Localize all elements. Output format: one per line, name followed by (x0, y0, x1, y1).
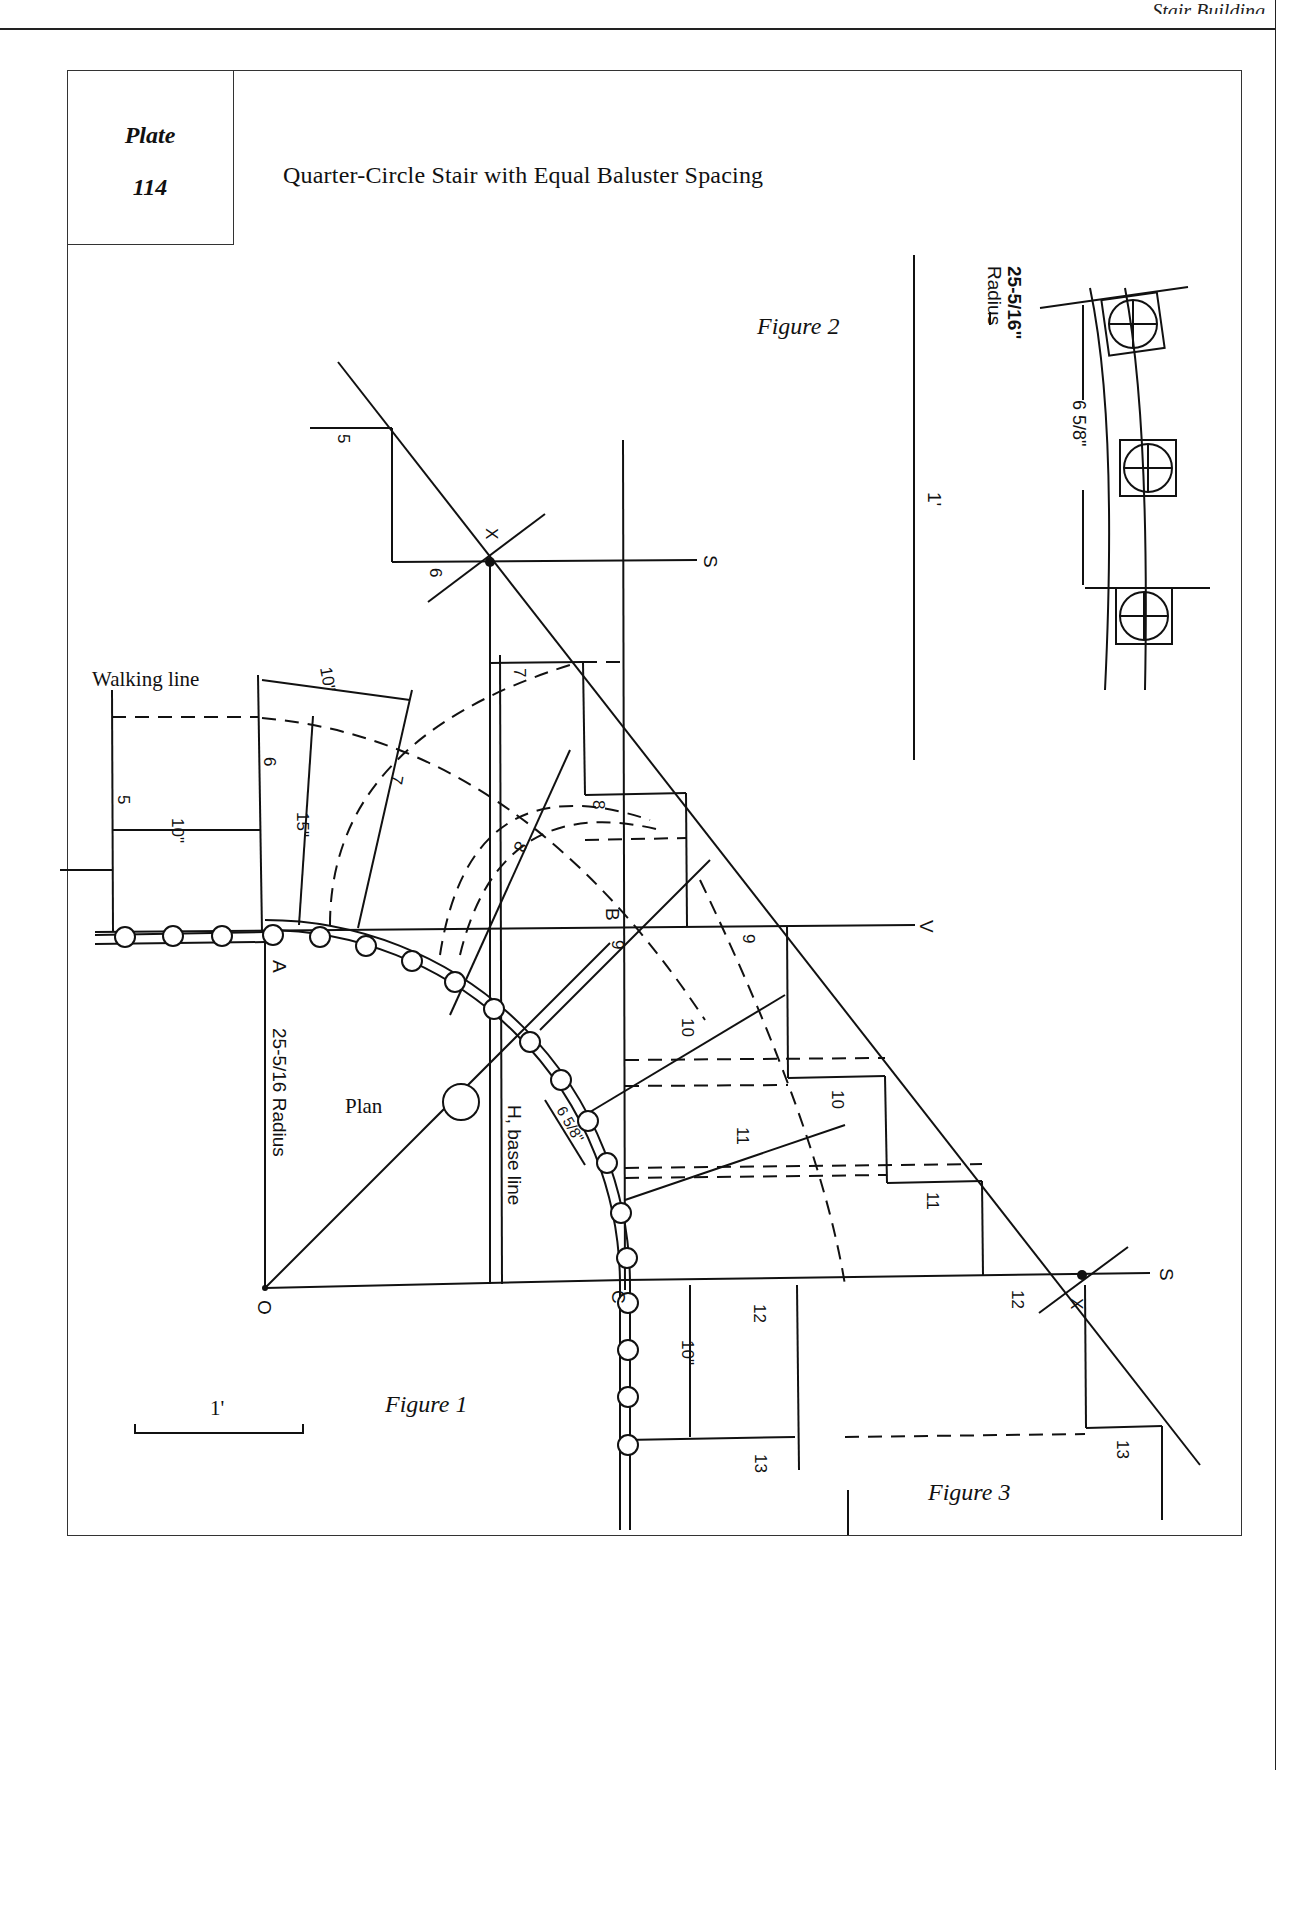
dim-15-inch: 15" (293, 812, 312, 837)
figure-2-radius-word: Radius (984, 266, 1005, 325)
step-number-10-elevation: 10 (828, 1090, 847, 1109)
baluster (310, 927, 330, 947)
step-number-9-elevation: 9 (739, 934, 758, 943)
figure-1-dashed-lines (112, 662, 1085, 1437)
point-a-label: A (269, 960, 290, 973)
base-line-label: H, base line (504, 1105, 525, 1205)
step-number-5-elevation: 5 (334, 434, 353, 443)
baluster (617, 1248, 637, 1268)
s-line-top (392, 560, 697, 562)
point-s-bottom-label: S (1156, 1268, 1177, 1281)
figure-3-caption: Figure 3 (927, 1479, 1010, 1505)
point-x-top-label: X (482, 528, 501, 539)
figure-1-scale-bar (135, 1424, 303, 1433)
step-number-11-elevation: 11 (923, 1192, 942, 1210)
step-number-6-elevation: 6 (426, 568, 445, 577)
step-number-12-elevation: 12 (1008, 1290, 1027, 1309)
baluster (163, 926, 183, 946)
baluster (263, 925, 283, 945)
step-number-5: 5 (114, 795, 133, 804)
dim-10-inch-straight: 10" (168, 818, 187, 843)
point-s-top-label: S (700, 555, 721, 568)
baluster (115, 927, 135, 947)
dim-10-inch-bottom: 10" (678, 1340, 697, 1365)
figure-2-labels: Figure 2 25-5/16" Radius 6 5/8" 1' (756, 266, 1089, 506)
step-number-10: 10 (678, 1018, 697, 1037)
plan-label: Plan (345, 1094, 383, 1118)
point-x-bottom-label: X (1067, 1298, 1086, 1309)
point-v-label: V (916, 920, 937, 933)
figure-1-labels: Walking line Plan Figure 1 1' A B C O V … (92, 434, 1177, 1473)
step-number-13-elevation: 13 (1113, 1440, 1132, 1459)
radius-label: 25-5/16 Radius (269, 1028, 290, 1157)
baluster (618, 1435, 638, 1455)
figure-2-radius-value: 25-5/16" (1004, 266, 1025, 339)
baluster (402, 951, 422, 971)
step-number-9: 9 (608, 940, 627, 949)
walking-line-label: Walking line (92, 667, 199, 691)
figure-1-caption: Figure 1 (384, 1391, 467, 1417)
point-o-label: O (254, 1300, 275, 1315)
step-number-7: 7 (386, 773, 406, 786)
baluster (618, 1387, 638, 1407)
radius-line-OC (265, 1280, 625, 1288)
point-c-label: C (608, 1290, 629, 1304)
step-number-13: 13 (751, 1454, 770, 1473)
point-b-label: B (602, 908, 623, 921)
figure-2-caption: Figure 2 (756, 313, 839, 339)
dim-10-inch-walking: 10" (316, 665, 339, 693)
h-base-line (500, 655, 502, 1284)
figure-2-baluster-spacing: 6 5/8" (1069, 400, 1089, 446)
baluster (597, 1153, 617, 1173)
baluster (618, 1340, 638, 1360)
baluster (356, 936, 376, 956)
figure-3-labels: Figure 3 (927, 1479, 1010, 1505)
step-number-7-elevation: 7 (510, 668, 529, 677)
figure-2-detail (914, 255, 1210, 760)
baluster (520, 1032, 540, 1052)
vertical-line-b (623, 440, 625, 1290)
step-number-8: 8 (509, 838, 530, 855)
figure-2-scale-label: 1' (924, 492, 945, 506)
baluster-circles (115, 925, 638, 1455)
baluster (611, 1203, 631, 1223)
baluster (445, 972, 465, 992)
baluster (484, 999, 504, 1019)
step-number-11: 11 (733, 1127, 752, 1145)
s-line-bottom (625, 1273, 1150, 1280)
step-number-6: 6 (260, 757, 279, 766)
baluster (212, 926, 232, 946)
scale-bar-label: 1' (210, 1396, 224, 1420)
baluster (551, 1070, 571, 1090)
newel-circle (443, 1084, 479, 1120)
step-number-8-elevation: 8 (589, 800, 608, 809)
step-number-12: 12 (750, 1304, 769, 1323)
stair-drawing: Walking line Plan Figure 1 1' A B C O V … (0, 0, 1305, 1916)
